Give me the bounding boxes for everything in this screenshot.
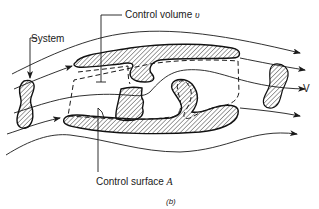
- control-volume-label: Control volume υ: [125, 10, 200, 20]
- middle-block: [116, 87, 144, 120]
- system-label: System: [31, 34, 64, 44]
- leader-system: [30, 38, 37, 78]
- streamline-4: [7, 118, 60, 134]
- control-surface-symbol: A: [167, 176, 173, 187]
- streamline-4b: [240, 108, 300, 116]
- control-volume-text: Control volume: [125, 9, 192, 20]
- velocity-label: V: [303, 84, 310, 94]
- streamline-5: [6, 133, 297, 155]
- system-blob-left: [17, 80, 34, 128]
- control-surface-label: Control surface A: [96, 177, 173, 187]
- control-surface-text: Control surface: [96, 176, 164, 187]
- streamline-3: [14, 70, 305, 113]
- control-volume-diagram: System Control volume υ Control surface …: [0, 0, 319, 209]
- control-volume-symbol: υ: [195, 9, 200, 20]
- lower-body: [64, 80, 239, 134]
- figure-caption: (b): [166, 198, 176, 206]
- upper-body: [74, 44, 240, 82]
